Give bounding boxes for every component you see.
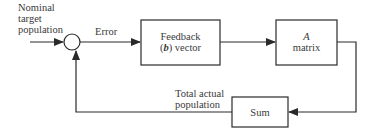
a-block-label: A matrix xyxy=(276,31,337,53)
error-label: Error xyxy=(95,26,117,37)
input-label-line: population xyxy=(18,24,63,35)
matrix-text: matrix xyxy=(276,42,337,53)
feedback-line1: Feedback xyxy=(141,31,220,42)
sum-label: Sum xyxy=(232,107,288,118)
vector-text: ) vector xyxy=(169,42,201,53)
a-symbol: A xyxy=(276,31,337,42)
feedback-line2: (b) vector xyxy=(141,42,220,53)
output-label-line: Total actual xyxy=(175,88,224,99)
output-label-line: population xyxy=(175,99,224,110)
input-label-line: Nominal xyxy=(18,2,63,13)
summing-junction xyxy=(64,34,80,50)
input-label: Nominal target population xyxy=(18,2,63,35)
output-label: Total actual population xyxy=(175,88,224,110)
feedback-block-label: Feedback (b) vector xyxy=(141,31,220,53)
input-label-line: target xyxy=(18,13,63,24)
